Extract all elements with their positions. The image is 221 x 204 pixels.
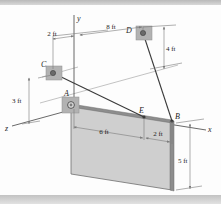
bottom-band: [0, 195, 221, 204]
dim-5ft-lines: [176, 119, 204, 190]
dim-2ft-top-lines: [53, 30, 108, 69]
dim-5ft-label: 5 ft: [178, 157, 188, 165]
label-point-a: A: [63, 89, 69, 98]
y-axis-label: y: [76, 14, 81, 23]
diagram-svg: y x z: [0, 5, 221, 195]
y-axis: y: [74, 14, 81, 109]
dim-2ft-top-label: 2 ft: [47, 30, 57, 38]
z-axis-label: z: [4, 124, 9, 133]
brackets: [46, 26, 152, 113]
joint-c: [50, 70, 55, 75]
dim-4ft-label: 4 ft: [166, 45, 176, 53]
dim-2ft-bottom-label: 2 ft: [153, 130, 163, 138]
dim-3ft-label: 3 ft: [12, 97, 22, 105]
label-point-d: D: [125, 26, 132, 35]
label-point-e: E: [138, 106, 144, 115]
diagram-canvas: y x z: [0, 5, 221, 195]
joint-d: [140, 30, 145, 35]
plate: [71, 104, 174, 191]
joint-a-ball: [70, 104, 73, 107]
figure-root: y x z: [0, 0, 221, 204]
dim-6ft-label: 6 ft: [99, 128, 109, 136]
label-point-c: C: [41, 60, 47, 69]
x-axis-label: x: [207, 125, 212, 134]
dim-8ft-label: 8 ft: [106, 23, 116, 31]
label-point-b: B: [175, 112, 180, 121]
